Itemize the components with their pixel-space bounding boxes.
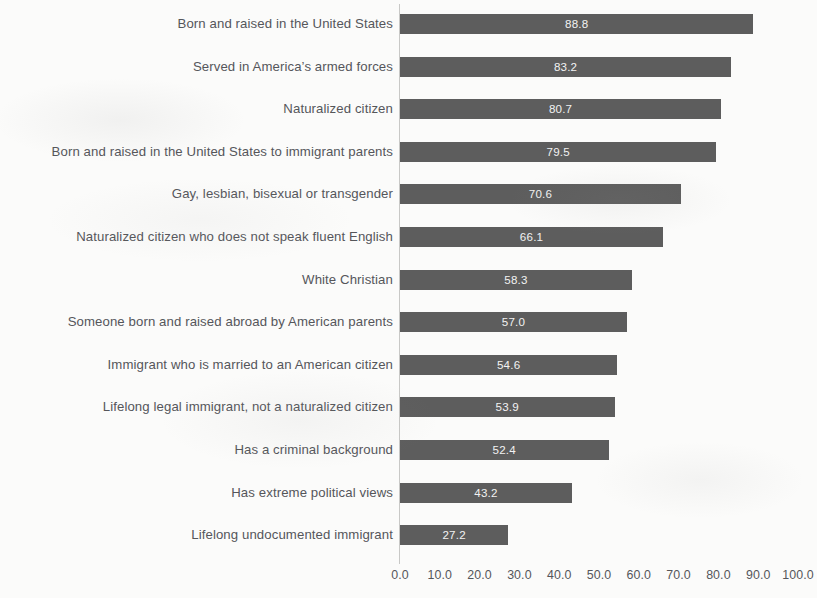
bar-track: 54.6 xyxy=(400,355,798,375)
x-tick-label: 50.0 xyxy=(587,568,612,582)
horizontal-bar-chart: Born and raised in the United States88.8… xyxy=(0,0,817,598)
bar: 66.1 xyxy=(400,227,663,247)
bar-value-label: 54.6 xyxy=(400,355,617,375)
category-label: Immigrant who is married to an American … xyxy=(108,344,393,386)
bar-value-label: 70.6 xyxy=(400,184,681,204)
bar: 57.0 xyxy=(400,312,627,332)
category-label: Lifelong legal immigrant, not a naturali… xyxy=(103,386,393,428)
bar-track: 83.2 xyxy=(400,57,798,77)
bar: 53.9 xyxy=(400,397,615,417)
bar-track: 43.2 xyxy=(400,483,798,503)
category-label: Served in America’s armed forces xyxy=(193,46,393,88)
bar-track: 53.9 xyxy=(400,397,798,417)
bar-value-label: 88.8 xyxy=(400,14,753,34)
x-tick-label: 20.0 xyxy=(467,568,492,582)
bar-track: 27.2 xyxy=(400,525,798,545)
bar: 27.2 xyxy=(400,525,508,545)
bar: 79.5 xyxy=(400,142,716,162)
category-label: Naturalized citizen who does not speak f… xyxy=(76,216,393,258)
bar-track: 57.0 xyxy=(400,312,798,332)
bar-row: Has a criminal background52.4 xyxy=(0,429,817,471)
bar: 54.6 xyxy=(400,355,617,375)
category-label: Someone born and raised abroad by Americ… xyxy=(68,301,393,343)
category-label: Born and raised in the United States to … xyxy=(52,131,393,173)
bar-row: Born and raised in the United States to … xyxy=(0,131,817,173)
bar-track: 80.7 xyxy=(400,99,798,119)
bar-track: 79.5 xyxy=(400,142,798,162)
x-tick-label: 0.0 xyxy=(391,568,409,582)
bar-value-label: 43.2 xyxy=(400,483,572,503)
category-label: Has extreme political views xyxy=(231,472,393,514)
bar: 80.7 xyxy=(400,99,721,119)
x-tick-label: 60.0 xyxy=(627,568,652,582)
bar-value-label: 58.3 xyxy=(400,270,632,290)
bar-row: Gay, lesbian, bisexual or transgender70.… xyxy=(0,173,817,215)
bar-value-label: 83.2 xyxy=(400,57,731,77)
category-label: Lifelong undocumented immigrant xyxy=(191,514,393,556)
bar-value-label: 27.2 xyxy=(400,525,508,545)
category-label: Naturalized citizen xyxy=(283,88,393,130)
bar-value-label: 80.7 xyxy=(400,99,721,119)
bar-row: Someone born and raised abroad by Americ… xyxy=(0,301,817,343)
category-label: Gay, lesbian, bisexual or transgender xyxy=(172,173,393,215)
category-label: Born and raised in the United States xyxy=(178,3,393,45)
bar-value-label: 79.5 xyxy=(400,142,716,162)
x-tick-label: 10.0 xyxy=(428,568,453,582)
x-tick-label: 70.0 xyxy=(666,568,691,582)
bar-row: Lifelong undocumented immigrant27.2 xyxy=(0,514,817,556)
x-axis-tick-labels: 0.010.020.030.040.050.060.070.080.090.01… xyxy=(400,568,798,590)
bar-track: 66.1 xyxy=(400,227,798,247)
x-tick-label: 100.0 xyxy=(782,568,814,582)
bar: 83.2 xyxy=(400,57,731,77)
bar: 70.6 xyxy=(400,184,681,204)
bar-track: 88.8 xyxy=(400,14,798,34)
category-label: White Christian xyxy=(302,259,393,301)
x-tick-label: 90.0 xyxy=(746,568,771,582)
bar: 88.8 xyxy=(400,14,753,34)
category-label: Has a criminal background xyxy=(234,429,393,471)
bar: 43.2 xyxy=(400,483,572,503)
x-tick-label: 40.0 xyxy=(547,568,572,582)
bar: 58.3 xyxy=(400,270,632,290)
bar-value-label: 57.0 xyxy=(400,312,627,332)
x-tick-label: 80.0 xyxy=(706,568,731,582)
bar-row: Has extreme political views43.2 xyxy=(0,472,817,514)
x-tick-label: 30.0 xyxy=(507,568,532,582)
bar-track: 52.4 xyxy=(400,440,798,460)
plot-area: Born and raised in the United States88.8… xyxy=(0,0,817,598)
bar-track: 58.3 xyxy=(400,270,798,290)
bar-track: 70.6 xyxy=(400,184,798,204)
bar-row: Immigrant who is married to an American … xyxy=(0,344,817,386)
bar-value-label: 52.4 xyxy=(400,440,609,460)
bar-row: White Christian58.3 xyxy=(0,259,817,301)
bar-row: Lifelong legal immigrant, not a naturali… xyxy=(0,386,817,428)
bar-value-label: 66.1 xyxy=(400,227,663,247)
bar-value-label: 53.9 xyxy=(400,397,615,417)
bar-row: Born and raised in the United States88.8 xyxy=(0,3,817,45)
bar-row: Naturalized citizen80.7 xyxy=(0,88,817,130)
bar: 52.4 xyxy=(400,440,609,460)
bar-row: Served in America’s armed forces83.2 xyxy=(0,46,817,88)
bar-row: Naturalized citizen who does not speak f… xyxy=(0,216,817,258)
